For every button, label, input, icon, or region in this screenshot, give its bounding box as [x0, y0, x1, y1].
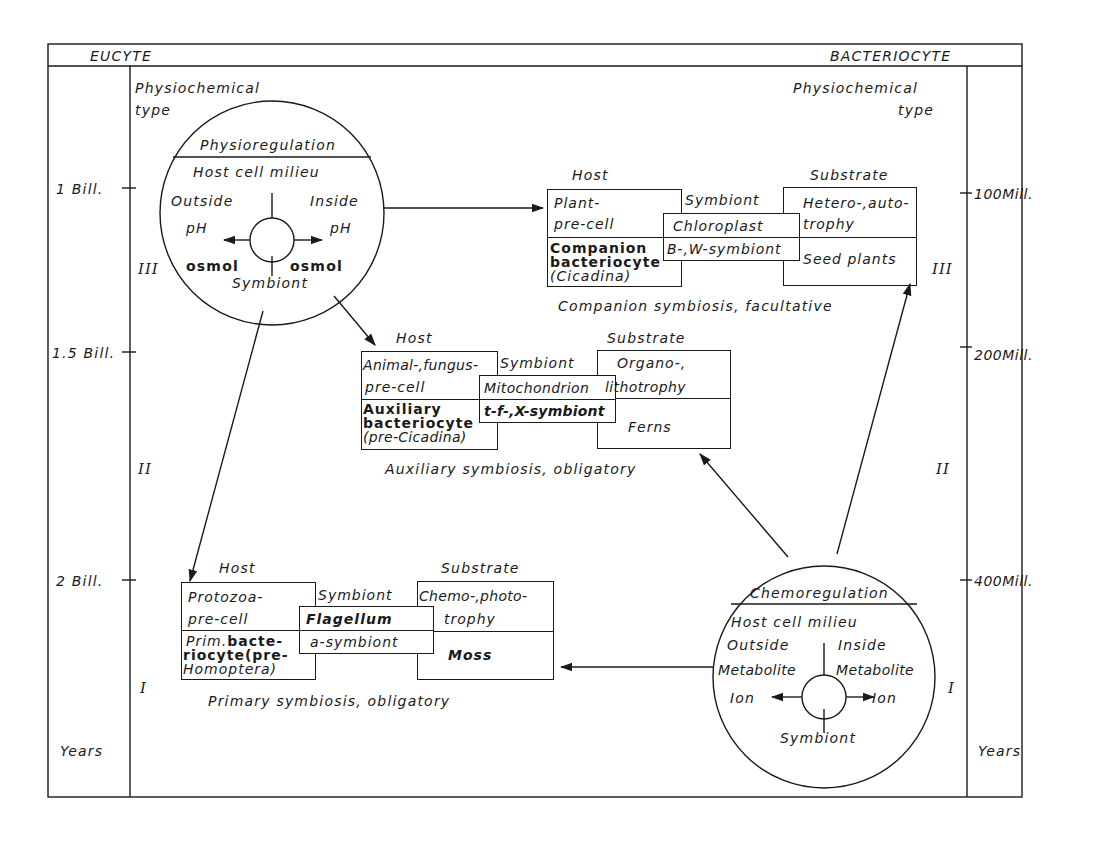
- companion-substrate-top-2: trophy: [803, 217, 855, 232]
- auxiliary-symbiont-top: Mitochondrion: [484, 381, 589, 396]
- auxiliary-host-top-2: pre-cell: [365, 380, 425, 395]
- auxiliary-substrate-top-1: Organo-,: [617, 356, 686, 371]
- left-phase-II: II: [138, 461, 152, 477]
- physio-inside-label: Inside: [310, 193, 359, 209]
- companion-substrate-bottom: Seed plants: [803, 252, 896, 267]
- chemoregulation-title: Chemoregulation: [750, 585, 889, 601]
- left-tick-2bill: 2 Bill.: [56, 573, 103, 589]
- companion-host-top-1: Plant-: [554, 196, 600, 211]
- chemo-milieu-label: Host cell milieu: [731, 614, 858, 630]
- physio-ph-left: pH: [186, 220, 208, 236]
- chemo-metabolite-right: Metabolite: [836, 662, 914, 678]
- companion-symbiont-bottom: B-,W-symbiont: [667, 242, 782, 257]
- physio-symbiont-label: Symbiont: [232, 275, 308, 291]
- auxiliary-symbiont-label: Symbiont: [500, 356, 575, 371]
- companion-substrate-top-1: Hetero-,auto-: [803, 196, 910, 211]
- chemo-ion-right: Ion: [872, 690, 897, 706]
- primary-substrate-label: Substrate: [441, 560, 520, 576]
- physio-outside-label: Outside: [171, 193, 233, 209]
- auxiliary-caption: Auxiliary symbiosis, obligatory: [385, 461, 636, 477]
- right-tick-200mill: 200Mill.: [974, 347, 1033, 363]
- primary-symbiont-top: Flagellum: [306, 612, 392, 627]
- left-phase-I: I: [140, 680, 147, 696]
- right-phase-II: II: [936, 461, 950, 477]
- auxiliary-host-bottom-3: (pre-Cicadina): [363, 430, 467, 445]
- right-phase-I: I: [948, 680, 955, 696]
- physio-osmol-left: osmol: [186, 258, 239, 274]
- chemo-metabolite-left: Metabolite: [718, 662, 796, 678]
- primary-symbiont-bottom: a-symbiont: [310, 635, 399, 650]
- left-physiochemical-label: Physiochemical: [135, 80, 260, 96]
- right-tick-100mill: 100Mill.: [974, 186, 1033, 202]
- left-tick-1-5bill: 1.5 Bill.: [52, 345, 115, 361]
- physio-milieu-label: Host cell milieu: [193, 164, 320, 180]
- auxiliary-host-top-1: Animal-,fungus-: [363, 358, 478, 373]
- physioregulation-title: Physioregulation: [200, 137, 336, 153]
- right-years-label: Years: [978, 743, 1021, 759]
- chemo-symbiont-label: Symbiont: [780, 730, 856, 746]
- left-phase-III: III: [138, 261, 159, 277]
- auxiliary-substrate-bottom: Ferns: [628, 420, 672, 435]
- primary-host-top-2: pre-cell: [188, 612, 248, 627]
- companion-host-bottom-3: (Cicadina): [550, 269, 631, 284]
- chemo-ion-left: Ion: [730, 690, 755, 706]
- left-years-label: Years: [60, 743, 103, 759]
- right-type-label: type: [898, 102, 934, 118]
- primary-host-label: Host: [219, 560, 256, 576]
- primary-host-top-1: Protozoa-: [188, 590, 263, 605]
- primary-substrate-top-1: Chemo-,photo-: [419, 589, 527, 604]
- auxiliary-symbiont-bottom: t-f-,X-symbiont: [484, 404, 605, 419]
- primary-host-bottom-3: Homoptera): [183, 662, 277, 677]
- primary-substrate-top-2: trophy: [444, 612, 496, 627]
- primary-substrate-bottom: Moss: [448, 648, 492, 663]
- companion-caption: Companion symbiosis, facultative: [558, 298, 833, 314]
- left-type-label: type: [135, 102, 171, 118]
- auxiliary-substrate-top-2: lithotrophy: [605, 380, 686, 395]
- physio-osmol-right: osmol: [290, 258, 343, 274]
- auxiliary-substrate-label: Substrate: [607, 330, 686, 346]
- bacteriocyte-header: BACTERIOCYTE: [830, 48, 951, 64]
- companion-substrate-label: Substrate: [810, 167, 889, 183]
- eucyte-header: EUCYTE: [90, 48, 152, 64]
- companion-symbiont-label: Symbiont: [685, 193, 760, 208]
- primary-symbiont-label: Symbiont: [318, 588, 393, 603]
- right-phase-III: III: [932, 261, 953, 277]
- right-physiochemical-label: Physiochemical: [793, 80, 918, 96]
- left-tick-1bill: 1 Bill.: [56, 181, 103, 197]
- auxiliary-host-label: Host: [396, 330, 433, 346]
- companion-symbiont-top: Chloroplast: [673, 219, 764, 234]
- companion-host-label: Host: [572, 167, 609, 183]
- primary-caption: Primary symbiosis, obligatory: [208, 693, 450, 709]
- physio-ph-right: pH: [330, 220, 352, 236]
- chemo-inside-label: Inside: [838, 637, 887, 653]
- companion-host-top-2: pre-cell: [554, 217, 614, 232]
- right-tick-400mill: 400Mill.: [974, 573, 1033, 589]
- chemo-outside-label: Outside: [727, 637, 789, 653]
